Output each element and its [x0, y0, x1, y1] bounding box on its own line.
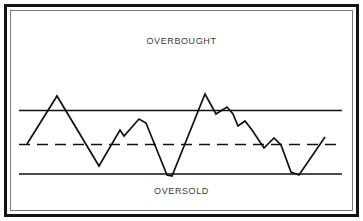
oversold-label: OVERSOLD [0, 186, 363, 196]
rsi-oscillator-chart: OVERBOUGHT OVERSOLD [0, 0, 363, 221]
overbought-label: OVERBOUGHT [0, 36, 363, 46]
